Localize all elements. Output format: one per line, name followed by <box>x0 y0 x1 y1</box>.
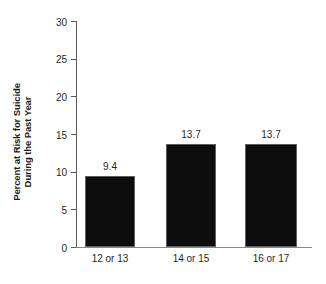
x-axis-tick-label: 16 or 17 <box>253 253 290 264</box>
y-axis-tick: 10 <box>71 172 76 173</box>
x-axis-tick-label: 14 or 15 <box>173 253 210 264</box>
y-axis-tick-label: 5 <box>61 204 67 215</box>
y-axis-title-line-1: Percent at Risk for Suicide <box>12 83 23 201</box>
bar-group: 13.7 16 or 17 <box>245 21 297 247</box>
y-axis-tick-label: 30 <box>56 16 67 27</box>
bar-value-label: 13.7 <box>181 129 200 140</box>
bar-group: 9.4 12 or 13 <box>85 21 135 247</box>
y-axis-title-line-2: During the Past Year <box>23 97 34 188</box>
y-axis-tick-label: 20 <box>56 91 67 102</box>
bar-chart-figure: Percent at Risk for Suicide During the P… <box>0 0 326 284</box>
bar-group: 13.7 14 or 15 <box>166 21 216 247</box>
bar[interactable] <box>85 176 135 247</box>
y-axis-tick: 15 <box>71 134 76 135</box>
x-axis-tick-label: 12 or 13 <box>92 253 129 264</box>
y-axis-tick-label: 25 <box>56 54 67 65</box>
y-axis-tick: 30 <box>71 21 76 22</box>
y-axis-tick-label: 15 <box>56 129 67 140</box>
bar[interactable] <box>166 144 216 247</box>
y-axis-tick: 5 <box>71 209 76 210</box>
x-axis-line <box>76 247 312 248</box>
bar-value-label: 13.7 <box>261 129 280 140</box>
y-axis-title: Percent at Risk for Suicide During the P… <box>0 0 46 284</box>
y-axis-tick-label: 0 <box>61 242 67 253</box>
y-axis-line <box>76 21 77 247</box>
y-axis-tick: 25 <box>71 59 76 60</box>
plot-area: 0 5 10 15 20 25 30 9.4 12 or 13 13.7 <box>76 21 312 247</box>
y-axis-tick-label: 10 <box>56 167 67 178</box>
y-axis-tick: 20 <box>71 96 76 97</box>
bar-value-label: 9.4 <box>103 161 117 172</box>
y-axis-tick: 0 <box>71 247 76 248</box>
bar[interactable] <box>245 144 297 247</box>
